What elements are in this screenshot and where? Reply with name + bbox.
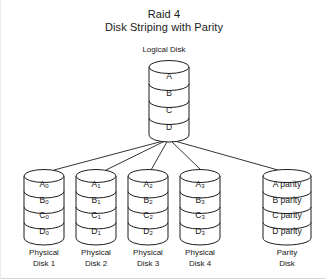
cell-sub: 0 [45,183,48,189]
physical-disk-1-cell-2: C0 [24,211,64,220]
diagram-canvas: Raid 4 Disk Striping with Parity Logical… [0,0,326,279]
logical-disk-cylinder: A B C D [149,60,189,142]
caption-line-1: Physical [180,248,220,259]
physical-disk-2-caption: Physical Disk 2 [76,248,116,269]
cell-sub: 3 [201,230,204,236]
connector-to-parity-disk [171,140,278,170]
physical-disk-4-caption: Physical Disk 4 [180,248,220,269]
cell-sub: 3 [201,183,204,189]
physical-disk-3-caption: Physical Disk 3 [128,248,168,269]
parity-disk-cylinder: A parity B parity C parity D parity [263,169,311,245]
physical-disk-1-cell-0: A0 [24,180,64,189]
physical-disk-4-cell-2: C3 [180,211,220,220]
parity-cell-D: D parity [263,227,311,236]
caption-line-2: Disk 3 [128,259,168,270]
connector-to-disk-2 [106,140,167,170]
logical-cell-A: A [149,72,189,81]
physical-disk-2: A1 B1 C1 D1 Physical Disk 2 [76,169,116,245]
cell-sub: 0 [45,230,48,236]
caption-line-2: Disk 2 [76,259,116,270]
physical-disk-3: A2 B2 C2 D2 Physical Disk 3 [128,169,168,245]
cell-sub: 1 [97,230,100,236]
cell-sub: 0 [45,214,48,220]
physical-disk-3-cell-1: B2 [128,196,168,205]
physical-disk-1-cell-1: B0 [24,196,64,205]
physical-disk-1-cylinder: A0 B0 C0 D0 [24,169,64,245]
physical-disk-1: A0 B0 C0 D0 Physical Disk 1 [24,169,64,245]
connector-to-disk-3 [151,140,168,170]
logical-cell-B: B [149,89,189,98]
cell-sub: 2 [149,199,152,205]
cell-sub: 3 [201,199,204,205]
physical-disk-1-caption: Physical Disk 1 [24,248,64,269]
logical-cell-C: C [149,106,189,115]
physical-disk-4-cell-1: B3 [180,196,220,205]
physical-disk-2-cell-2: C1 [76,211,116,220]
physical-disk-2-cell-0: A1 [76,180,116,189]
cell-sub: 1 [97,214,100,220]
physical-disk-2-cylinder: A1 B1 C1 D1 [76,169,116,245]
logical-cell-D: D [149,123,189,132]
caption-line-1: Physical [24,248,64,259]
cell-sub: 1 [97,199,100,205]
physical-disk-2-cell-1: B1 [76,196,116,205]
physical-disk-4-cylinder: A3 B3 C3 D3 [180,169,220,245]
logical-disk: A B C D [149,60,189,142]
cell-sub: 2 [149,183,152,189]
cell-sub: 3 [201,214,204,220]
caption-line-2: Disk 4 [180,259,220,270]
parity-cell-B: B parity [263,196,311,205]
cell-sub: 2 [149,214,152,220]
parity-disk-caption: Parity Disk [263,248,311,269]
connector-to-disk-1 [54,140,167,170]
caption-line-2: Disk [263,259,311,270]
cell-sub: 1 [97,183,100,189]
physical-disk-4-cell-3: D3 [180,227,220,236]
physical-disk-3-cylinder: A2 B2 C2 D2 [128,169,168,245]
physical-disk-4: A3 B3 C3 D3 Physical Disk 4 [180,169,220,245]
physical-disk-1-cell-3: D0 [24,227,64,236]
physical-disk-2-cell-3: D1 [76,227,116,236]
cell-sub: 2 [149,230,152,236]
physical-disk-3-cell-3: D2 [128,227,168,236]
physical-disk-3-cell-2: C2 [128,211,168,220]
caption-line-1: Physical [128,248,168,259]
parity-cell-C: C parity [263,211,311,220]
caption-line-2: Disk 1 [24,259,64,270]
caption-line-1: Physical [76,248,116,259]
parity-cell-A: A parity [263,180,311,189]
parity-disk: A parity B parity C parity D parity Pari… [263,169,311,245]
cell-sub: 0 [45,199,48,205]
physical-disk-4-cell-0: A3 [180,180,220,189]
caption-line-1: Parity [263,248,311,259]
physical-disk-3-cell-0: A2 [128,180,168,189]
